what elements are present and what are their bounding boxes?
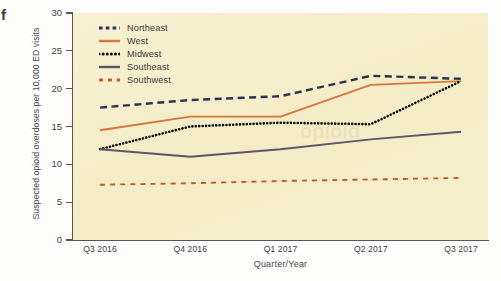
y-tick-mark — [66, 202, 73, 203]
y-tick-mark — [66, 88, 73, 89]
legend-swatch-icon — [99, 49, 120, 59]
x-axis-title-text: Quarter/Year — [254, 259, 308, 269]
legend-label: Midwest — [127, 49, 161, 59]
y-tick-mark — [66, 239, 73, 240]
legend-swatch-icon — [99, 62, 120, 72]
y-tick-label: 20 — [38, 83, 62, 94]
x-tick-label: Q4 2016 — [155, 244, 225, 254]
legend-swatch-icon — [99, 23, 120, 33]
x-axis-title: Quarter/Year — [73, 259, 488, 269]
legend-item-northeast[interactable]: Northeast — [99, 22, 171, 33]
y-tick-mark — [66, 50, 73, 51]
legend-item-west[interactable]: West — [99, 35, 171, 46]
x-axis-line — [72, 240, 489, 241]
chart-legend: NortheastWestMidwestSoutheastSouthwest — [99, 22, 171, 86]
y-tick-label: 15 — [38, 121, 62, 132]
legend-item-southeast[interactable]: Southeast — [99, 62, 171, 73]
y-tick-label: 10 — [38, 158, 62, 169]
y-tick-label: 5 — [38, 196, 62, 207]
legend-item-southwest[interactable]: Southwest — [99, 75, 171, 86]
legend-label: West — [127, 36, 148, 46]
y-tick-label: 0 — [38, 234, 62, 245]
series-line-southeast — [100, 132, 461, 157]
legend-label: Southeast — [127, 62, 169, 72]
legend-item-midwest[interactable]: Midwest — [99, 48, 171, 59]
panel-letter: f — [1, 6, 6, 23]
y-tick-label: 25 — [38, 45, 62, 56]
y-tick-mark — [66, 164, 73, 165]
legend-swatch-icon — [99, 75, 120, 85]
y-tick-mark — [66, 126, 73, 127]
legend-label: Southwest — [127, 75, 171, 85]
x-tick-label: Q3 2016 — [65, 244, 135, 254]
y-tick-mark — [66, 12, 73, 13]
x-tick-label: Q2 2017 — [336, 244, 406, 254]
series-line-southwest — [100, 178, 461, 185]
x-tick-label: Q1 2017 — [246, 244, 316, 254]
legend-swatch-icon — [99, 36, 120, 46]
series-line-midwest — [100, 81, 461, 149]
legend-label: Northeast — [127, 23, 168, 33]
figure-panel: f Suspected opioid overdoses per 10,000 … — [0, 0, 501, 281]
y-tick-label: 30 — [38, 7, 62, 18]
x-tick-label: Q3 2017 — [426, 244, 496, 254]
